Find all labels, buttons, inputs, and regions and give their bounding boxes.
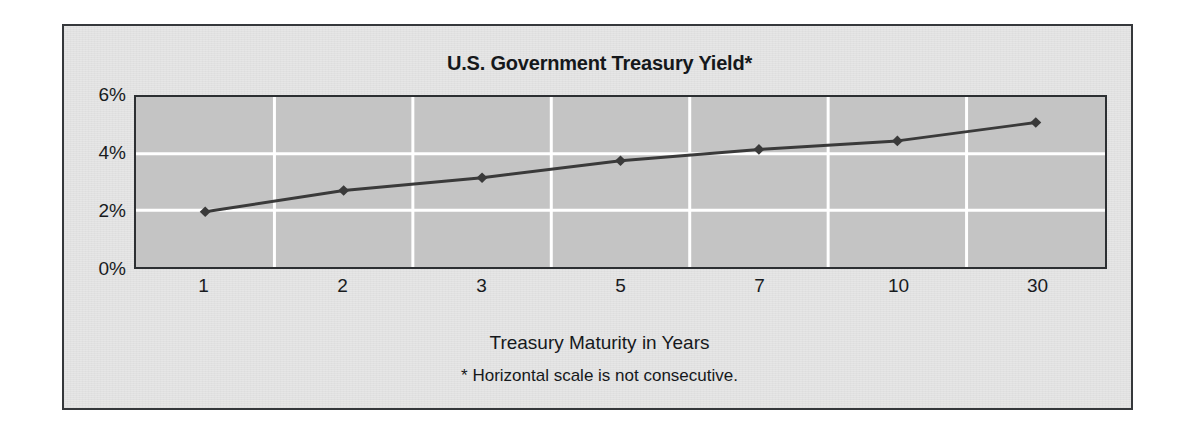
y-axis-tick-labels: 0%2%4%6% [64, 95, 126, 269]
yield-curve-line [205, 123, 1036, 212]
chart-title: U.S. Government Treasury Yield* [64, 52, 1135, 75]
x-axis-tick-label: 10 [869, 275, 929, 297]
y-axis-tick-label: 2% [70, 200, 126, 222]
x-axis-tick-label: 1 [174, 275, 234, 297]
data-point-marker [892, 136, 903, 147]
data-point-marker [1030, 117, 1041, 128]
x-axis-title: Treasury Maturity in Years [64, 332, 1135, 354]
plot-svg [136, 97, 1105, 267]
x-axis-tick-label: 30 [1008, 275, 1068, 297]
x-axis-tick-label: 7 [730, 275, 790, 297]
data-point-marker [615, 155, 626, 166]
x-axis-tick-label: 5 [591, 275, 651, 297]
x-axis-tick-labels: 123571030 [134, 275, 1107, 301]
chart-footnote: * Horizontal scale is not consecutive. [64, 366, 1135, 386]
yield-curve-markers [200, 117, 1042, 217]
plot-area [134, 95, 1107, 269]
chart-figure-panel: U.S. Government Treasury Yield* 0%2%4%6%… [62, 24, 1133, 410]
y-axis-tick-label: 6% [70, 84, 126, 106]
vertical-gridlines [274, 97, 966, 267]
x-axis-tick-label: 2 [313, 275, 373, 297]
y-axis-tick-label: 0% [70, 258, 126, 280]
data-point-marker [338, 185, 349, 196]
data-point-marker [200, 206, 211, 217]
x-axis-tick-label: 3 [452, 275, 512, 297]
y-axis-tick-label: 4% [70, 142, 126, 164]
data-point-marker [477, 172, 488, 183]
